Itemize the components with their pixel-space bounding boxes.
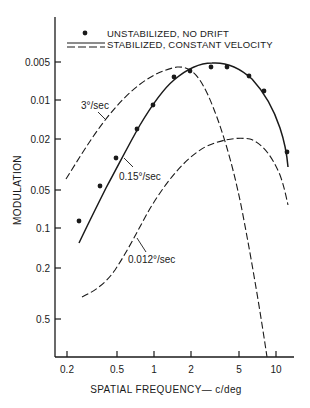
curve-0012deg-per-sec bbox=[82, 138, 288, 297]
data-point bbox=[188, 69, 193, 74]
chart-svg: 0.005 0.01 0.02 0.05 0.1 0.2 0.5 0.2 0.5… bbox=[0, 0, 310, 408]
data-point bbox=[172, 75, 177, 80]
x-tick-label: 2 bbox=[188, 364, 194, 375]
label-015deg: 0.15°/sec bbox=[119, 158, 161, 182]
data-point bbox=[77, 219, 82, 224]
curve-label-3deg: 3°/sec bbox=[81, 100, 109, 111]
y-tick-label: 0.02 bbox=[31, 134, 51, 145]
y-tick-label: 0.005 bbox=[25, 57, 50, 68]
x-axis-title: SPATIAL FREQUENCY— c/deg bbox=[90, 384, 242, 395]
data-point bbox=[98, 184, 103, 189]
y-tick-label: 0.05 bbox=[31, 185, 51, 196]
legend-label-unstabilized: UNSTABILIZED, NO DRIFT bbox=[107, 28, 229, 39]
y-ticks bbox=[55, 62, 61, 319]
y-tick-label: 0.2 bbox=[36, 263, 50, 274]
y-tick-labels: 0.005 0.01 0.02 0.05 0.1 0.2 0.5 bbox=[25, 57, 50, 325]
label-0012deg: 0.012°/sec bbox=[128, 238, 175, 265]
y-axis-title: MODULATION bbox=[12, 155, 23, 225]
y-tick-label: 0.5 bbox=[36, 314, 50, 325]
data-point bbox=[247, 74, 252, 79]
x-tick-label: 0.5 bbox=[110, 364, 124, 375]
x-tick-label: 5 bbox=[236, 364, 242, 375]
legend-label-stabilized: STABILIZED, CONSTANT VELOCITY bbox=[107, 39, 273, 50]
data-points-unstabilized bbox=[77, 65, 290, 224]
leader-line-0012deg bbox=[137, 238, 146, 252]
x-tick-label: 0.2 bbox=[60, 364, 74, 375]
x-ticks bbox=[67, 351, 276, 357]
leader-line-3deg bbox=[98, 112, 106, 120]
data-point bbox=[285, 150, 290, 155]
curve-label-0012deg: 0.012°/sec bbox=[128, 254, 175, 265]
y-tick-label: 0.01 bbox=[31, 95, 51, 106]
data-point bbox=[209, 65, 214, 70]
x-tick-label: 10 bbox=[270, 364, 282, 375]
label-3deg: 3°/sec bbox=[81, 100, 109, 120]
legend-dot-marker bbox=[83, 31, 88, 36]
data-point bbox=[262, 89, 267, 94]
data-point bbox=[151, 103, 156, 108]
curve-label-015deg: 0.15°/sec bbox=[119, 171, 161, 182]
curve-015deg-per-sec bbox=[79, 63, 288, 243]
data-point bbox=[225, 65, 230, 70]
x-tick-labels: 0.2 0.5 1 2 5 10 bbox=[60, 364, 282, 375]
data-point bbox=[135, 127, 140, 132]
legend: UNSTABILIZED, NO DRIFT STABILIZED, CONST… bbox=[67, 28, 273, 50]
y-tick-label: 0.1 bbox=[36, 223, 50, 234]
data-point bbox=[114, 156, 119, 161]
x-tick-label: 1 bbox=[151, 364, 157, 375]
leader-line-015deg bbox=[124, 158, 133, 167]
